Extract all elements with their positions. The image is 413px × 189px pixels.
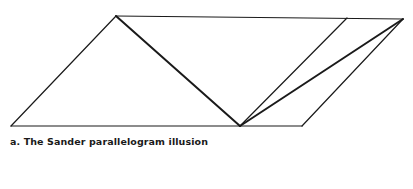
right-side-line xyxy=(302,19,403,126)
left-side-line xyxy=(11,16,116,126)
inner-parallelogram-right-side-line xyxy=(240,18,347,126)
left-diagonal-line xyxy=(116,16,240,126)
outer-parallelogram-top-line xyxy=(116,16,403,19)
figure-caption: a. The Sander parallelogram illusion xyxy=(10,136,208,147)
sander-parallelogram-figure xyxy=(0,0,413,135)
right-diagonal-line xyxy=(240,19,403,126)
